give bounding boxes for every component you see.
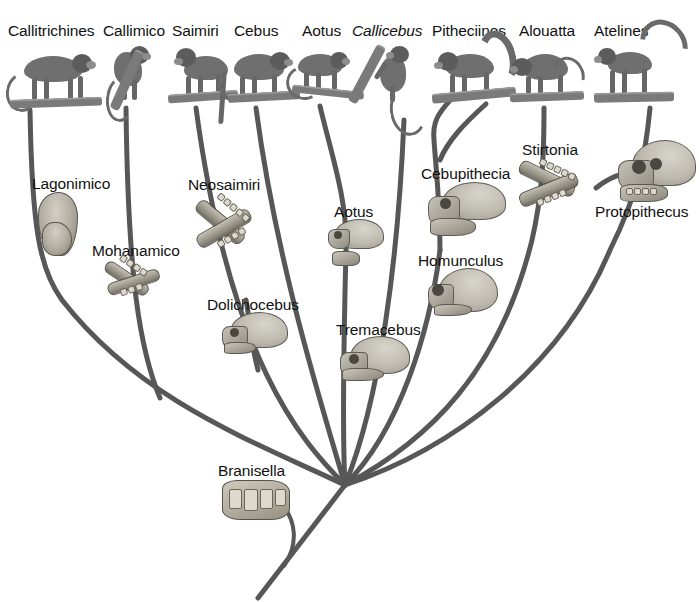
branch-aotus [320,106,346,485]
fossil-label-cebupithecia: Cebupithecia [421,165,510,183]
fossil-label-homunculus: Homunculus [418,252,503,270]
taxon-label-callitrichines: Callitrichines [8,22,94,40]
fossil-label-mohanamico: Mohanamico [92,242,180,260]
fossil-label-dolichocebus: Dolichocebus [207,296,299,314]
taxon-label-cebus: Cebus [234,22,278,40]
taxon-label-callimico: Callimico [103,22,165,40]
taxon-label-aotus: Aotus [302,22,341,40]
fossil-label-neosaimiri: Neosaimiri [188,176,260,194]
fossil-label-branisella: Branisella [218,462,285,480]
branch-pitheciines-fork [440,104,486,160]
taxon-label-alouatta: Alouatta [519,22,575,40]
taxon-label-saimiri: Saimiri [172,22,219,40]
branch-callicebus [345,120,404,485]
fossil-label-stirtonia: Stirtonia [522,141,578,159]
fossil-label-protopithecus: Protopithecus [595,203,688,221]
phylogenetic-tree-figure: Callitrichines Callimico Saimiri Cebus A… [0,0,699,602]
fossil-label-aotus: Aotus [334,203,373,221]
fossil-label-lagonimico: Lagonimico [32,175,110,193]
taxon-label-callicebus: Callicebus [352,22,423,40]
